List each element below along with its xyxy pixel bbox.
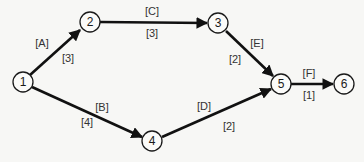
duration-label-e: [2] [229,53,241,65]
node-4-label: 4 [149,134,156,148]
activity-label-c: [C] [145,5,159,17]
network-diagram: [A] [3] [B] [4] [C] [3] [D] [2] [E] [2] … [0,0,364,162]
activity-label-d: [D] [197,100,211,112]
activity-label-f: [F] [303,67,316,79]
edge-c: [C] [3] [100,5,207,39]
node-2: 2 [80,12,100,32]
node-5-label: 5 [278,77,285,91]
node-5: 5 [271,74,291,94]
node-1: 1 [13,72,33,92]
edge-d: [D] [2] [162,89,271,137]
node-6: 6 [334,74,354,94]
activity-label-b: [B] [95,101,108,113]
edge-a: [A] [3] [30,30,80,75]
node-6-label: 6 [341,77,348,91]
duration-label-c: [3] [146,27,158,39]
edge-e: [E] [2] [226,31,273,76]
node-2-label: 2 [87,15,94,29]
node-1-label: 1 [20,75,27,89]
activity-label-a: [A] [35,37,48,49]
edge-f: [F] [1] [291,67,333,101]
duration-label-f: [1] [303,89,315,101]
node-4: 4 [142,131,162,151]
edge-b: [B] [4] [32,87,142,137]
activity-label-e: [E] [250,37,263,49]
duration-label-a: [3] [62,52,74,64]
node-3: 3 [208,13,228,33]
duration-label-b: [4] [81,116,93,128]
node-3-label: 3 [215,16,222,30]
duration-label-d: [2] [223,120,235,132]
